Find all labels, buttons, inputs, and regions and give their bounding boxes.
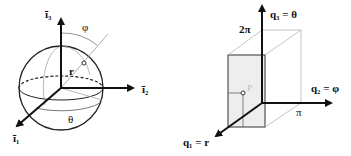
label-phi: φ bbox=[82, 22, 88, 33]
label-q2: q₂ = φ bbox=[311, 83, 339, 94]
tick-2pi: 2π bbox=[239, 24, 251, 35]
phi-arc bbox=[61, 33, 97, 45]
label-i1: ī₁ bbox=[13, 133, 19, 144]
label-q1: q₁ = r bbox=[183, 137, 209, 148]
point-p bbox=[241, 91, 245, 95]
label-q3: q₃ = θ bbox=[270, 9, 297, 20]
label-r: r bbox=[69, 66, 74, 77]
box-diagram bbox=[216, 6, 331, 136]
theta-arc bbox=[36, 103, 100, 111]
label-p: P bbox=[247, 84, 252, 93]
sphere-diagram bbox=[17, 19, 133, 130]
label-theta: θ bbox=[68, 114, 73, 125]
label-i3: ī₃ bbox=[45, 9, 51, 20]
label-i2: ī₂ bbox=[142, 84, 148, 95]
point-marker bbox=[82, 61, 86, 65]
figure bbox=[0, 0, 351, 156]
equator-front bbox=[19, 88, 103, 100]
tick-pi: π bbox=[296, 107, 302, 118]
